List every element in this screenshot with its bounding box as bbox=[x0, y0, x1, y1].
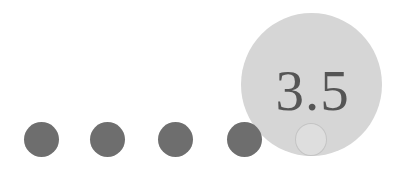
rating-graphic: 3.5 bbox=[0, 0, 407, 184]
rating-dot-icon bbox=[24, 122, 59, 157]
rating-dot-icon bbox=[90, 122, 125, 157]
rating-value: 3.5 bbox=[241, 62, 382, 119]
rating-dot-icon bbox=[158, 122, 193, 157]
partial-rating-dot-icon bbox=[295, 123, 327, 156]
rating-dot-icon bbox=[227, 122, 262, 157]
